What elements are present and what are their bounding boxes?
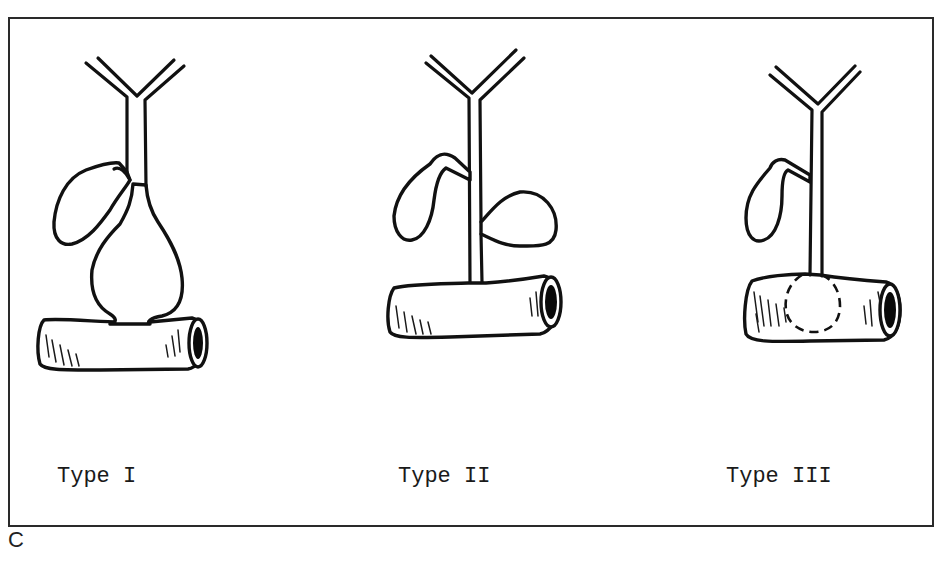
type-3-gallbladder [746,159,810,241]
type-2-diverticulum [481,192,556,246]
type-1-duodenum [38,318,207,370]
type-3-label: Type III [726,464,832,489]
type-3-illustration [745,66,900,341]
type-2-illustration [388,50,561,337]
type-2-label: Type II [398,464,490,489]
type-3-duodenum [745,274,900,341]
type-2-duodenum [388,276,561,337]
type-1-label: Type I [57,464,136,489]
type-2-gallbladder [394,154,470,240]
type-1-illustration [38,58,207,370]
panel-letter: C [8,527,24,553]
